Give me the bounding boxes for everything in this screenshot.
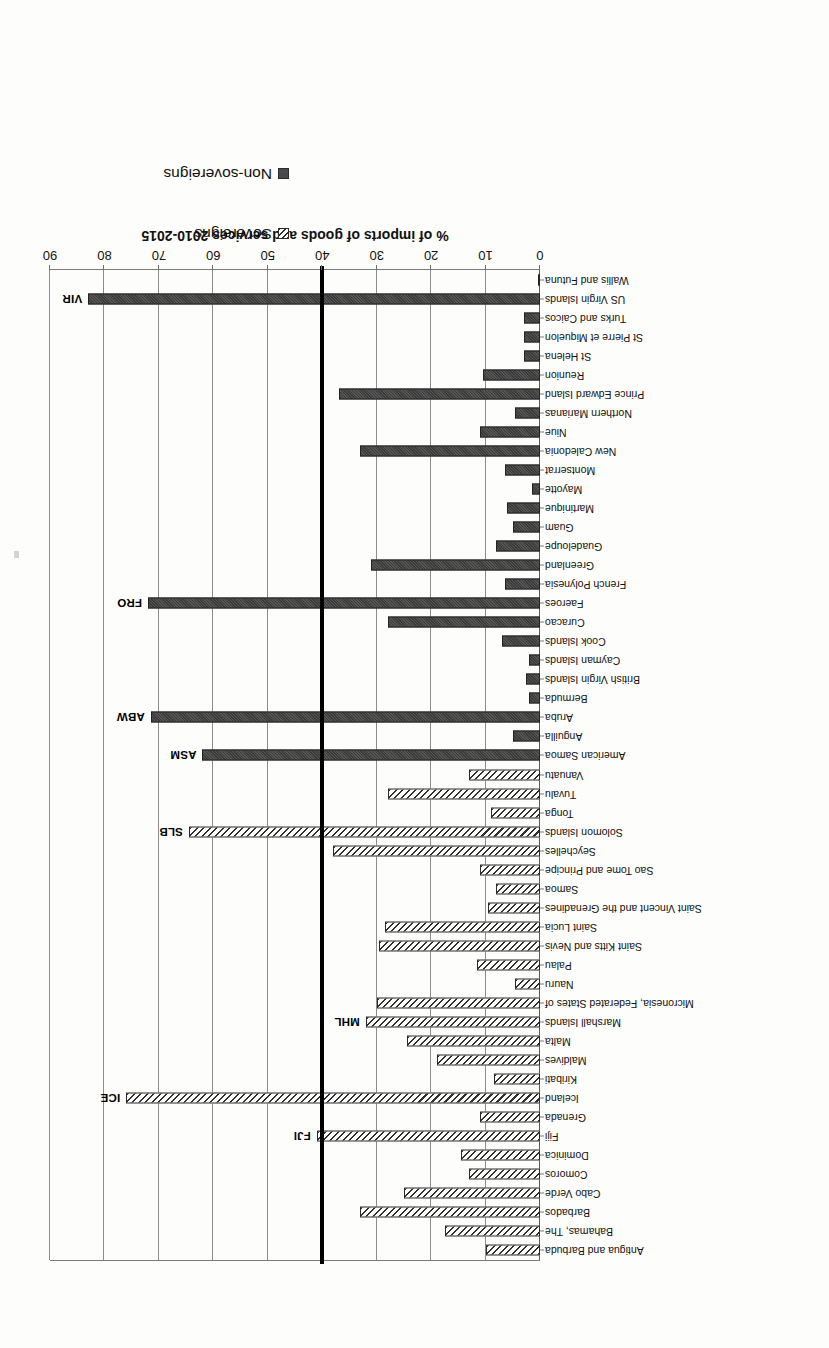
category-tick (540, 736, 544, 737)
category-label: French Polynesia (545, 579, 626, 590)
bar-row: Bahamas, The (50, 1222, 540, 1241)
category-label: Barbados (545, 1207, 590, 1218)
bar-sovereigns (494, 1074, 540, 1085)
bar-sovereigns (385, 921, 540, 932)
bar-row: Sao Tome and Principe (50, 860, 540, 879)
category-tick (540, 641, 544, 642)
bar-row: Kiribati (50, 1070, 540, 1089)
bar-non-sovereigns (524, 312, 540, 323)
bar-non-sovereigns (148, 598, 540, 609)
annotation-slb: SLB (159, 826, 183, 838)
category-tick (540, 355, 544, 356)
bar-row: French Polynesia (50, 575, 540, 594)
bar-non-sovereigns (371, 560, 540, 571)
category-label: Vanuatu (545, 769, 583, 780)
bar-row: Prince Edward Island (50, 384, 540, 403)
category-tick (540, 698, 544, 699)
bar-row: Cabo Verde (50, 1184, 540, 1203)
category-tick (540, 1250, 544, 1251)
category-label: Seychelles (545, 845, 596, 856)
bar-non-sovereigns (496, 541, 540, 552)
category-label: Turks and Caicos (545, 312, 626, 323)
bar-row: Tuvalu (50, 784, 540, 803)
category-label: Wallis and Futuna (545, 274, 629, 285)
category-tick (540, 279, 544, 280)
bar-row: Niue (50, 422, 540, 441)
bar-row: Antigua and Barbuda (50, 1241, 540, 1260)
bar-non-sovereigns (88, 293, 540, 304)
x-tick-40 (321, 265, 322, 270)
bar-row: Seychelles (50, 841, 540, 860)
legend-item-non-sovereigns[interactable]: Non-sovereigns (163, 165, 289, 183)
category-label: Grenada (545, 1112, 586, 1123)
category-tick (540, 1117, 544, 1118)
bar-non-sovereigns (480, 426, 540, 437)
bar-row: Bermuda (50, 689, 540, 708)
category-label: Faeroes (545, 598, 584, 609)
bar-sovereigns (366, 1017, 540, 1028)
category-tick (540, 679, 544, 680)
category-tick (540, 755, 544, 756)
category-tick (540, 1212, 544, 1213)
category-tick (540, 1041, 544, 1042)
x-tick-label-10: 10 (478, 248, 492, 263)
category-tick (540, 1002, 544, 1003)
category-tick (540, 831, 544, 832)
bar-non-sovereigns (507, 502, 540, 513)
category-tick (540, 850, 544, 851)
category-label: Saint Vincent and the Grenadines (545, 902, 702, 913)
bar-sovereigns (189, 826, 540, 837)
category-tick (540, 907, 544, 908)
category-label: Malta (545, 1036, 571, 1047)
bar-sovereigns (516, 978, 541, 989)
category-label: Prince Edward Island (545, 388, 644, 399)
category-tick (540, 812, 544, 813)
category-label: Iceland (545, 1093, 579, 1104)
category-label: Montserrat (545, 464, 595, 475)
bar-sovereigns (491, 807, 540, 818)
category-tick (540, 793, 544, 794)
legend-swatch-icon (278, 228, 289, 239)
category-label: Micronesia, Federated States of (545, 997, 694, 1008)
bar-non-sovereigns (529, 693, 540, 704)
category-label: Greenland (545, 560, 594, 571)
category-tick (540, 717, 544, 718)
bar-row: Grenada (50, 1108, 540, 1127)
x-tick-10 (485, 265, 486, 270)
category-tick (540, 622, 544, 623)
bar-non-sovereigns (360, 445, 540, 456)
bar-row: Saint Kitts and Nevis (50, 936, 540, 955)
bar-row: Northern Marianas (50, 403, 540, 422)
bar-row: Turks and Caicos (50, 308, 540, 327)
annotation-asm: ASM (170, 749, 196, 761)
bar-non-sovereigns (524, 350, 540, 361)
category-label: Bahamas, The (545, 1226, 613, 1237)
x-tick-label-80: 80 (97, 248, 111, 263)
category-label: Saint Lucia (545, 921, 597, 932)
bar-sovereigns (461, 1150, 540, 1161)
category-tick (540, 888, 544, 889)
bar-row: Palau (50, 955, 540, 974)
category-tick (540, 1174, 544, 1175)
x-tick-0 (539, 265, 540, 270)
category-label: Guadeloupe (545, 541, 602, 552)
bar-row: Tonga (50, 803, 540, 822)
legend-item-sovereigns[interactable]: Sovereigns (194, 225, 289, 243)
bar-sovereigns (496, 883, 540, 894)
x-tick-60 (212, 265, 213, 270)
bar-row: Nauru (50, 974, 540, 993)
category-tick (540, 450, 544, 451)
category-tick (540, 603, 544, 604)
bar-row: Dominica (50, 1146, 540, 1165)
category-label: Bermuda (545, 693, 588, 704)
bar-row: Barbados (50, 1203, 540, 1222)
annotation-fji: FJI (294, 1130, 311, 1142)
x-tick-label-50: 50 (261, 248, 275, 263)
legend-label: Non-sovereigns (163, 166, 272, 183)
legend-swatch-icon (278, 168, 289, 179)
category-tick (540, 1231, 544, 1232)
bar-non-sovereigns (339, 388, 540, 399)
bar-row: IcelandICE (50, 1089, 540, 1108)
bar-non-sovereigns (483, 369, 540, 380)
category-label: St Pierre et Miquelon (545, 331, 643, 342)
